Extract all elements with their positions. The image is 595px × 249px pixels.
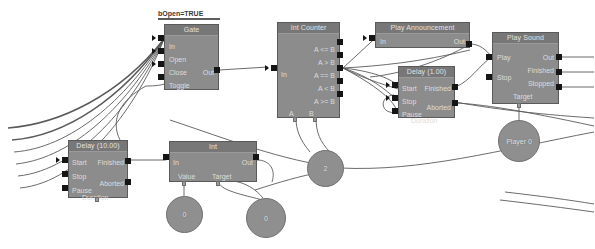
pin-label-delay10-stop: Stop [72,173,86,181]
pin-sound-stopped[interactable] [556,84,562,90]
pin-counter-in[interactable] [271,65,277,71]
pin-label-counter-a-gt-b: A > B [318,59,335,67]
pin-sound-play[interactable] [486,54,492,60]
pin-counter-a-eq-b[interactable] [337,65,343,71]
pin-delay10-pause[interactable] [62,185,68,191]
caret-gate-close [152,61,156,67]
caret-delay10-start [56,157,60,163]
node-gate-title: Gate [165,25,218,36]
pin-counter-a-le-b[interactable] [337,39,343,45]
comment-bopen-true: bOpen=TRUE [158,10,220,20]
node-delay-10-title: Delay (10.00) [69,141,127,152]
node-play-announcement-title: Play Announcement [376,23,469,34]
pin-label-int-out: Out [242,159,253,167]
value-node-int-const-value[interactable]: 0 [166,196,203,233]
pin-counter-a-lt-b[interactable] [337,78,343,84]
pin-sound-target[interactable] [517,103,521,108]
pin-delay10-start[interactable] [62,157,68,163]
node-int-counter-title: Int Counter [278,23,339,34]
caret-delay1-start [386,82,390,88]
pin-sound-stop[interactable] [486,74,492,80]
pin-counter-a[interactable] [293,117,297,122]
pin-counter-a-ge-b[interactable] [337,91,343,97]
pin-counter-a-gt-b[interactable] [337,52,343,58]
node-int-counter[interactable]: Int Counter In A <= B A > B A == B A < B… [277,22,340,118]
pin-label-int-target: Target [212,173,231,181]
pin-delay10-finished[interactable] [125,158,131,164]
pin-label-sound-target: Target [513,93,532,101]
pin-label-sound-finished: Finished [528,67,554,75]
pin-delay1-finished[interactable] [452,84,458,90]
pin-delay1-aborted[interactable] [452,100,458,106]
pin-gate-open[interactable] [158,48,164,54]
comment-underline [158,18,220,20]
caret-gate-open [152,48,156,54]
node-play-announcement[interactable]: Play Announcement In Out [375,22,470,48]
comment-text: bOpen=TRUE [158,10,203,17]
pin-label-counter-a-lt-b: A < B [318,85,335,93]
pin-label-counter-a-ge-b: A >= B [314,98,335,106]
value-node-player-0[interactable]: Player 0 [498,120,540,162]
pin-label-gate-close: Close [169,69,187,77]
value-node-int-const-target[interactable]: 0 [246,198,286,238]
pin-label-delay10-start: Start [72,159,87,167]
pin-label-delay1-aborted: Aborted [426,104,451,112]
pin-delay1-start[interactable] [392,82,398,88]
node-gate[interactable]: Gate In Open Close Toggle Out [164,24,219,90]
node-play-sound[interactable]: Play Sound Play Stop Out Finished Stoppe… [492,32,559,104]
pin-label-gate-out: Out [203,69,214,77]
pin-sound-finished[interactable] [556,69,562,75]
value-node-player-0-label: Player 0 [506,138,532,145]
pin-delay10-aborted[interactable] [125,179,131,185]
caret-counter-in [265,65,269,71]
pin-label-gate-in: In [169,43,175,51]
pin-gate-out[interactable] [214,67,220,73]
pin-delay1-stop[interactable] [392,95,398,101]
pin-label-announcement-out: Out [454,38,465,46]
caret-announcement-in [363,35,367,41]
pin-gate-in[interactable] [158,35,164,41]
pin-label-gate-open: Open [169,56,186,64]
node-int[interactable]: Int In Out Value Target [169,141,257,182]
node-delay-1[interactable]: Delay (1.00) Start Stop Pause Finished A… [398,66,455,118]
value-node-int-const-target-label: 0 [264,215,268,222]
pin-label-delay10-finished: Finished [98,159,124,167]
node-delay-10[interactable]: Delay (10.00) Start Stop Pause Finished … [68,140,128,198]
pin-label-delay1-finished: Finished [425,85,451,93]
pin-gate-close[interactable] [158,61,164,67]
pin-label-counter-a-le-b: A <= B [314,46,335,54]
pin-label-delay10-aborted: Aborted [99,180,124,188]
pin-label-sound-stopped: Stopped [528,80,554,88]
value-node-int-const-2[interactable]: 2 [307,150,344,187]
node-play-sound-title: Play Sound [493,33,558,44]
pin-delay10-stop[interactable] [62,171,68,177]
pin-label-delay1-start: Start [402,85,417,93]
pin-delay10-duration[interactable] [95,197,99,202]
pin-delay1-pause[interactable] [392,108,398,114]
pin-label-counter-in: In [281,71,287,79]
pin-counter-b[interactable] [313,117,317,122]
pin-label-int-in: In [173,159,179,167]
pin-sound-out[interactable] [556,54,562,60]
node-int-title: Int [170,142,256,153]
caret-gate-in [152,35,156,41]
pin-label-delay1-stop: Stop [402,98,416,106]
pin-label-sound-stop: Stop [497,74,511,82]
pin-label-delay1-duration: Duration [411,117,437,125]
pin-int-value[interactable] [182,181,186,186]
pin-int-target[interactable] [216,181,220,186]
pin-label-sound-out: Out [543,54,554,62]
pin-label-counter-a-eq-b: A == B [314,72,335,80]
pin-label-gate-toggle: Toggle [169,82,190,90]
node-delay-1-title: Delay (1.00) [399,67,454,78]
pin-announcement-in[interactable] [369,35,375,41]
pin-int-in[interactable] [163,154,169,160]
pin-label-int-value: Value [178,173,195,181]
pin-int-out[interactable] [253,154,259,160]
value-node-int-const-2-label: 2 [324,165,328,172]
pin-label-announcement-in: In [380,38,386,46]
node-graph-canvas[interactable]: bOpen=TRUE Gate In Open Close Toggle Out… [0,0,595,249]
pin-gate-toggle[interactable] [158,74,164,80]
pin-announcement-out[interactable] [466,41,472,47]
caret-delay1-stop [386,95,390,101]
